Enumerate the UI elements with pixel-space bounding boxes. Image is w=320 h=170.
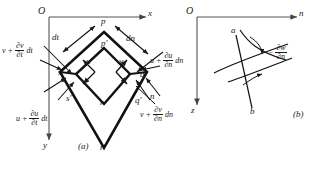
point-label-r: r	[100, 98, 104, 107]
expression-v-partial-t: v + ∂v∂t dt	[2, 42, 33, 59]
curve-label-a: a	[231, 26, 236, 35]
figure-container: O x y p p' q q' r r' s s' dt dn n u v v …	[0, 0, 320, 170]
expression-u-partial-t-tail: dt	[41, 114, 47, 123]
point-label-s-prime: s'	[66, 94, 71, 103]
curve-label-b: b	[250, 107, 255, 116]
panel-b-n-axis-label: n	[299, 9, 304, 18]
caption-b: (b)	[293, 110, 304, 119]
expression-u-partial-t-fraction: ∂u∂t	[29, 110, 39, 127]
velocity-label-u: u	[86, 57, 91, 66]
expression-u-partial-n-base: u +	[150, 56, 161, 65]
point-label-q: q	[140, 70, 145, 79]
point-label-s: s	[58, 68, 62, 77]
panel-a-origin-label: O	[38, 6, 45, 16]
point-label-p-prime: p'	[101, 39, 107, 48]
point-label-r-prime: r'	[100, 143, 105, 152]
dimension-label-dn: dn	[126, 34, 135, 43]
element-connector-legs	[60, 72, 147, 74]
dimension-arrow-dt	[63, 26, 95, 52]
expression-u-partial-t-base: u +	[16, 114, 27, 123]
expression-v-partial-n-fraction: ∂v∂n	[153, 106, 163, 123]
expression-u-partial-t: u + ∂u∂t dt	[16, 110, 48, 127]
expression-u-partial-n-fraction: ∂u∂n	[163, 52, 173, 69]
expression-v-partial-t-fraction: ∂v∂t	[15, 42, 25, 59]
panel-b-z-axis-label: z	[191, 106, 195, 115]
dimension-label-dt: dt	[52, 33, 59, 42]
expression-v-partial-t-base: v +	[2, 46, 13, 55]
panel-a-y-axis-label: y	[43, 141, 47, 150]
expression-neg-partial-w-n-sign: −	[268, 48, 273, 57]
expression-v-partial-n-tail: dn	[165, 110, 173, 119]
curve-a-b-pair	[214, 30, 292, 108]
figure-vector-layer	[0, 0, 320, 170]
local-axis-label-n: n	[150, 92, 155, 101]
expression-neg-partial-w-n-fraction: ∂w∂n	[275, 44, 286, 61]
panel-b-origin-label: O	[186, 6, 193, 16]
panel-a-x-axis-label: x	[148, 9, 152, 18]
velocity-label-v: v	[119, 57, 123, 66]
expression-u-partial-n: u + ∂u∂n dn	[150, 52, 183, 69]
expression-neg-partial-w-n: − ∂w∂n	[268, 44, 287, 61]
expression-v-partial-n-base: v +	[140, 110, 151, 119]
point-label-p: p	[101, 17, 106, 26]
expression-v-partial-t-tail: dt	[26, 46, 32, 55]
point-label-q-prime: q'	[135, 96, 141, 105]
expression-u-partial-n-tail: dn	[175, 56, 183, 65]
expression-v-partial-n: v + ∂v∂n dn	[140, 106, 173, 123]
caption-a: (a)	[78, 142, 89, 151]
